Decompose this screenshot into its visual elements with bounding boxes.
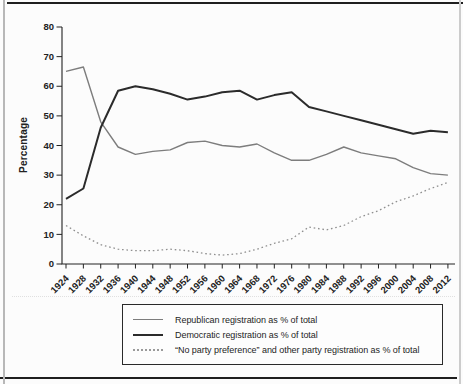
x-tick-label: 2008 xyxy=(413,273,436,296)
x-tick-label: 2012 xyxy=(430,273,453,296)
y-tick-label: 30 xyxy=(43,169,54,180)
x-tick-label: 1924 xyxy=(48,272,71,295)
x-tick-label: 1968 xyxy=(239,273,262,296)
x-tick-label: 1944 xyxy=(135,272,158,295)
x-tick-label: 1984 xyxy=(309,272,332,295)
no_party_other-line xyxy=(66,183,448,256)
democratic-line xyxy=(66,86,448,199)
legend-item-democratic: Democratic registration as % of total xyxy=(133,330,438,340)
legend-label-democratic: Democratic registration as % of total xyxy=(175,330,318,340)
y-axis-title: Percentage xyxy=(18,117,29,173)
x-tick-label: 1976 xyxy=(274,273,297,296)
y-tick-label: 0 xyxy=(49,258,54,269)
republican-line xyxy=(66,67,448,175)
x-tick-label: 1948 xyxy=(152,273,175,296)
x-tick-label: 2000 xyxy=(378,273,401,296)
x-tick-label: 1928 xyxy=(66,273,89,296)
y-tick-label: 40 xyxy=(43,140,54,151)
x-tick-label: 1996 xyxy=(361,273,384,296)
x-tick-label: 1988 xyxy=(326,273,349,296)
x-tick-label: 1940 xyxy=(118,273,141,296)
y-tick-label: 70 xyxy=(43,51,54,62)
x-tick-label: 1956 xyxy=(187,273,210,296)
x-tick-label: 2004 xyxy=(395,272,418,295)
legend-label-republican: Republican registration as % of total xyxy=(175,315,317,325)
x-tick-label: 1964 xyxy=(222,272,245,295)
no-party-line-swatch xyxy=(133,349,163,351)
chart-legend: Republican registration as % of total De… xyxy=(122,304,443,365)
scanned-book-page: 0102030405060708019241928193219361940194… xyxy=(0,0,463,384)
y-tick-label: 10 xyxy=(43,229,54,240)
y-tick-label: 20 xyxy=(43,199,54,210)
x-tick-label: 1992 xyxy=(343,273,366,296)
x-tick-label: 1972 xyxy=(257,273,280,296)
democratic-line-swatch xyxy=(133,334,163,336)
y-tick-label: 60 xyxy=(43,80,54,91)
x-tick-label: 1960 xyxy=(204,273,227,296)
y-tick-label: 80 xyxy=(43,21,54,32)
republican-line-swatch xyxy=(133,319,163,320)
x-tick-label: 1980 xyxy=(291,273,314,296)
legend-item-no-party: “No party preference” and other party re… xyxy=(133,345,438,355)
x-tick-label: 1952 xyxy=(170,273,193,296)
legend-item-republican: Republican registration as % of total xyxy=(133,315,438,325)
legend-label-no-party: “No party preference” and other party re… xyxy=(175,345,419,355)
x-tick-label: 1936 xyxy=(100,273,123,296)
y-tick-label: 50 xyxy=(43,110,54,121)
x-tick-label: 1932 xyxy=(83,273,106,296)
